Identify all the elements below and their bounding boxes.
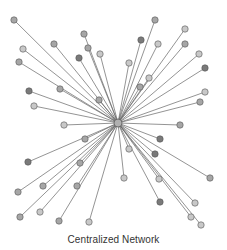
network-node-9 (26, 88, 32, 94)
hub-circle (114, 119, 122, 127)
network-node-41 (156, 176, 162, 182)
edge-33 (59, 123, 118, 221)
network-node-39 (207, 175, 213, 181)
network-node-45 (198, 222, 204, 228)
edge-42 (118, 123, 160, 202)
edge-30 (77, 123, 118, 186)
edge-11 (34, 106, 118, 123)
network-node-44 (188, 214, 194, 220)
edge-31 (20, 123, 118, 217)
network-node-7 (16, 59, 22, 65)
edge-32 (40, 123, 118, 212)
network-node-6 (97, 51, 103, 57)
network-node-3 (81, 31, 87, 37)
network-node-19 (202, 65, 208, 71)
edge-35 (118, 123, 180, 125)
network-node-32 (37, 209, 43, 215)
network-node-2 (20, 46, 26, 52)
edge-26 (28, 123, 118, 162)
edge-37 (118, 123, 155, 154)
network-node-36 (157, 136, 163, 142)
network-node-27 (77, 160, 83, 166)
network-node-24 (61, 122, 67, 128)
network-node-35 (177, 122, 183, 128)
network-node-12 (152, 17, 158, 23)
network-node-37 (152, 151, 158, 157)
edge-40 (118, 123, 124, 178)
edge-24 (64, 123, 118, 125)
network-node-10 (96, 97, 102, 103)
network-node-28 (40, 183, 46, 189)
network-node-25 (82, 136, 88, 142)
network-node-20 (146, 75, 152, 81)
edge-0 (14, 20, 118, 123)
network-node-5 (76, 55, 82, 61)
network-node-26 (25, 159, 31, 165)
network-node-30 (74, 183, 80, 189)
edge-43 (118, 123, 195, 203)
network-node-33 (56, 218, 62, 224)
network-node-23 (197, 99, 203, 105)
hub-node (114, 119, 122, 127)
network-node-38 (126, 146, 132, 152)
edge-28 (43, 123, 118, 186)
network-node-17 (126, 60, 132, 66)
network-node-13 (138, 37, 144, 43)
network-node-11 (31, 103, 37, 109)
centralized-network-diagram (0, 0, 227, 250)
network-node-29 (15, 189, 21, 195)
network-node-40 (121, 175, 127, 181)
network-node-15 (182, 26, 188, 32)
network-node-14 (155, 41, 161, 47)
network-node-1 (51, 41, 57, 47)
network-node-4 (85, 45, 91, 51)
network-node-21 (137, 84, 143, 90)
network-node-0 (11, 17, 17, 23)
network-node-22 (202, 89, 208, 95)
network-node-31 (17, 214, 23, 220)
diagram-caption: Centralized Network (0, 234, 227, 245)
network-node-16 (182, 41, 188, 47)
network-node-8 (57, 86, 63, 92)
network-node-43 (192, 200, 198, 206)
edge-29 (18, 123, 118, 192)
network-node-42 (157, 199, 163, 205)
network-node-18 (196, 51, 202, 57)
network-node-34 (86, 219, 92, 225)
